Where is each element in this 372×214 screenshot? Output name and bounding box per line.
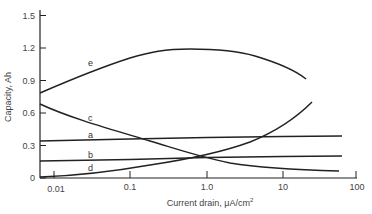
- y-tick-label: 1.2: [22, 43, 35, 53]
- curve-e: [40, 49, 306, 93]
- y-axis-title: Capacity, Ah: [3, 72, 13, 122]
- x-tick-label: 10: [278, 182, 288, 192]
- curve-label-d: d: [88, 163, 93, 173]
- x-tick-label: 0.01: [47, 184, 65, 194]
- y-tick-label: 0.3: [22, 141, 35, 151]
- curve-a: [40, 136, 342, 141]
- x-axis-title: Current drain, μA/cm2: [167, 197, 254, 208]
- curve-labels: e c a b d: [88, 58, 93, 173]
- curve-label-e: e: [88, 58, 93, 68]
- y-tick-label: 0.9: [22, 76, 35, 86]
- x-ticks: 0.01 0.1 1.0 10 100: [47, 171, 364, 194]
- capacity-vs-current-chart: 0 0.3 0.6 0.9 1.2 1.5 0.01 0.1 1.0 10 10…: [0, 0, 372, 214]
- curve-label-b: b: [88, 150, 93, 160]
- y-tick-label: 0.6: [22, 108, 35, 118]
- y-tick-label: 1.5: [22, 11, 35, 21]
- y-ticks: 0 0.3 0.6 0.9 1.2 1.5: [22, 11, 46, 184]
- curve-label-c: c: [88, 113, 93, 123]
- x-tick-label: 100: [349, 182, 364, 192]
- y-tick-label: 0: [30, 173, 35, 183]
- curves: [40, 49, 342, 177]
- curve-label-a: a: [88, 130, 93, 140]
- x-tick-label: 0.1: [124, 182, 137, 192]
- x-tick-label: 1.0: [201, 182, 214, 192]
